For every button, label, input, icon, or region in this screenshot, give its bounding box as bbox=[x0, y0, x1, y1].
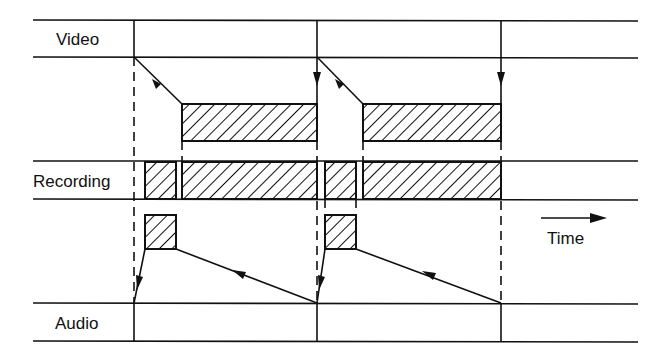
audio-return-line-cycle-1 bbox=[176, 249, 317, 303]
video-band-top bbox=[33, 20, 638, 21]
arrow-icon bbox=[152, 79, 161, 89]
audio-band-top bbox=[33, 303, 638, 304]
row-label-video: Video bbox=[56, 30, 99, 49]
video-band-bottom bbox=[33, 57, 638, 58]
audio-block-cycle-2 bbox=[325, 215, 356, 249]
arrow-right-icon bbox=[590, 213, 607, 223]
arrow-down-icon bbox=[318, 275, 325, 290]
video-flow-line-cycle-2 bbox=[317, 57, 363, 104]
time-axis: Time bbox=[541, 213, 607, 248]
recording-video-segment-cycle-2 bbox=[363, 162, 501, 199]
video-block-cycle-2 bbox=[363, 104, 501, 141]
timing-diagram: Video Recording Audio bbox=[0, 0, 668, 358]
recording-audio-segment-cycle-2 bbox=[325, 162, 356, 199]
audio-block-cycle-1 bbox=[145, 215, 176, 249]
arrow-down-icon bbox=[136, 275, 143, 290]
time-label: Time bbox=[547, 229, 584, 248]
arrow-down-icon bbox=[497, 72, 505, 86]
recording-video-segment-cycle-1 bbox=[182, 162, 317, 199]
video-flow-line-cycle-1 bbox=[134, 57, 182, 104]
arrow-left-icon bbox=[232, 270, 246, 279]
video-flow-arrows bbox=[134, 57, 505, 104]
video-block-cycle-1 bbox=[182, 104, 317, 141]
row-label-audio: Audio bbox=[55, 314, 98, 333]
recording-audio-segment-cycle-1 bbox=[145, 162, 176, 199]
arrow-down-icon bbox=[313, 72, 321, 86]
row-label-recording: Recording bbox=[33, 172, 111, 191]
audio-band-bottom bbox=[33, 341, 638, 342]
